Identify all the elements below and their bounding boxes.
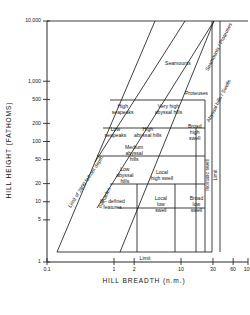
region-label-broad-high-swell: Broadhighswell: [188, 123, 202, 141]
y-tick-label: 10,000: [25, 17, 41, 23]
region-label-local-high-swell: Localhigh swell: [151, 169, 173, 181]
y-tick-label: 1: [38, 258, 41, 264]
region-label-proteuses: Proteuses: [185, 90, 208, 96]
y-tick-label: 1,000: [28, 78, 41, 84]
y-tick-label: 200: [32, 120, 41, 126]
y-tick-label: 20: [35, 180, 41, 186]
y-tick-label: 100: [32, 138, 41, 144]
boundary-label-limit-right: Limit: [212, 169, 218, 180]
boundary-label-isostatic-swell: Isostatic swell: [204, 159, 210, 190]
region-labels: SeamountsProteusesHighseapeaksVery higha…: [100, 61, 208, 213]
chart-svg: 151020501002005001,00010,000 0.112103060…: [0, 0, 250, 315]
x-axis-title: HILL BREADTH (n.m.): [102, 277, 185, 285]
y-tick-label: 50: [35, 156, 41, 162]
y-axis-ticks: 151020501002005001,00010,000: [25, 17, 50, 264]
pinnacles-line: [95, 21, 155, 162]
limit-2800-fathom-line: [95, 21, 185, 162]
x-tick-label: 100: [244, 266, 250, 272]
region-label-medium-abyssal-hills: Mediumabyssalhills: [125, 144, 143, 162]
region-label-local-low-swell: Locallowswell: [155, 195, 167, 213]
boundary-label-seamounts-proteuses: Seamounts / Proteuses: [204, 21, 234, 71]
region-label-broad-low-swell: Broadlowswell: [190, 195, 204, 213]
boundary-label-limit-2800: Limit of 2800 fathom depth: [67, 155, 105, 209]
x-tick-label: 60: [230, 266, 236, 272]
x-tick-label: 2: [133, 266, 136, 272]
region-label-seamounts: Seamounts: [165, 61, 191, 67]
y-tick-label: 500: [32, 96, 41, 102]
boundary-label-limit-bottom: Limit: [140, 255, 151, 261]
y-tick-label: 5: [38, 216, 41, 222]
region-label-low-abyssal-hills: Lowabyssalhills: [116, 166, 133, 184]
x-tick-label: 0.1: [43, 266, 50, 272]
x-tick-label: 30: [210, 266, 216, 272]
hill-classification-chart: 151020501002005001,00010,000 0.112103060…: [0, 0, 250, 315]
boundary-label-abyssal-swells: Abyssal hills / Swells: [205, 78, 232, 123]
axes: [47, 21, 248, 262]
boundary-label-group: Limit of 2800 fathom depth Pinnacles Sea…: [67, 21, 234, 261]
y-tick-label: 10: [35, 198, 41, 204]
x-tick-label: 1: [113, 266, 116, 272]
region-label-very-high-abyssal-hills: Very highabyssal hills: [155, 104, 183, 116]
x-tick-label: 10: [178, 266, 184, 272]
y-axis-title: HILL HEIGHT (FATHOMS): [5, 102, 13, 199]
